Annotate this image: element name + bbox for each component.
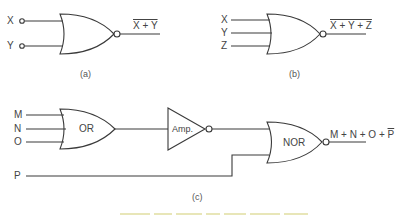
output-label-a: X + Y: [133, 21, 158, 31]
or-gate-label: OR: [79, 123, 94, 134]
input-label-x-a: X: [7, 16, 14, 26]
input-label-p: P: [14, 171, 21, 181]
logic-diagram: [0, 0, 402, 217]
nor-gate-label: NOR: [283, 137, 305, 148]
caption-c: (c): [192, 193, 203, 202]
caption-b: (b): [289, 70, 300, 79]
output-label-b: X + Y + Z: [330, 21, 372, 31]
or-gate-c: [26, 109, 168, 149]
input-label-m: M: [14, 110, 22, 120]
input-label-n: N: [14, 124, 21, 134]
output-label-c-prefix: M + N + O +: [330, 129, 388, 140]
input-label-x-b: X: [221, 15, 228, 25]
input-label-y-b: Y: [221, 28, 228, 38]
caption-a: (a): [80, 70, 91, 79]
p-wire: [26, 155, 269, 176]
truncated-caption: [120, 213, 340, 217]
output-label-c: M + N + O + P: [330, 130, 394, 140]
input-label-y-a: Y: [7, 41, 14, 51]
input-label-o: O: [14, 137, 22, 147]
amp-label: Amp.: [172, 124, 193, 134]
output-label-c-negated: P: [388, 129, 395, 140]
input-label-z-b: Z: [221, 41, 227, 51]
